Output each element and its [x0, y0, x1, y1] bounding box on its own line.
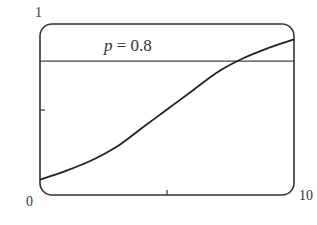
y-max-label: 1	[35, 5, 42, 20]
origin-label: 0	[26, 194, 33, 209]
chart: p = 0.8 1 0 10	[0, 0, 317, 225]
logistic-curve	[40, 39, 294, 179]
annotation-p-0.8: p = 0.8	[103, 36, 152, 55]
x-max-label: 10	[299, 188, 313, 203]
